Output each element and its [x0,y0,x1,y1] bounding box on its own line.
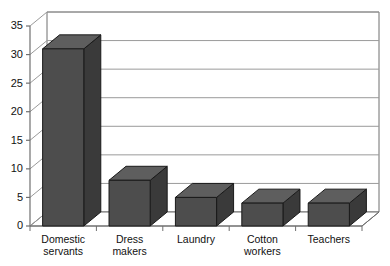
bar-domestic-servants [43,35,101,226]
y-tick-label-15: 15 [11,134,23,146]
bar-laundry [175,183,233,226]
y-tick-label-0: 0 [17,219,23,231]
y-tick-label-30: 30 [11,48,23,60]
x-axis-label-teachers: Teachers [307,233,350,245]
x-axis-label-dress-makers: Dressmakers [112,233,146,257]
bar-front-face [308,203,349,226]
x-axis-label-cotton-workers: Cottonworkers [243,233,281,257]
y-axis-ticks-group: 05101520253035 [11,19,30,231]
y-tick-label-20: 20 [11,105,23,117]
bar-front-face [242,203,283,226]
x-axis-label-laundry: Laundry [177,233,216,245]
bar-chart: 05101520253035DomesticservantsDressmaker… [0,0,390,266]
bar-dress-makers [109,166,167,226]
x-axis-separators-group [30,226,362,231]
y-tick-label-10: 10 [11,162,23,174]
y-tick-label-25: 25 [11,77,23,89]
axis-depth-connector-35 [30,12,47,26]
bar-front-face [109,180,150,226]
bar-front-face [175,197,216,226]
y-tick-label-35: 35 [11,19,23,31]
bar-front-face [43,49,84,226]
x-axis-labels-group: DomesticservantsDressmakersLaundryCotton… [41,233,350,257]
bar-side-face [84,35,101,226]
x-axis-label-domestic-servants: Domesticservants [41,233,85,257]
chart-canvas: 05101520253035DomesticservantsDressmaker… [0,0,390,266]
y-tick-label-5: 5 [17,191,23,203]
